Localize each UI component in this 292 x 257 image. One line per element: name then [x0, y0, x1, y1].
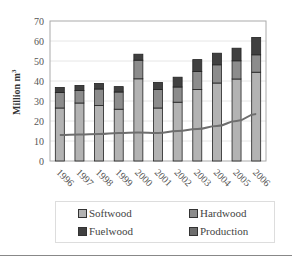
legend-label: Fuelwood — [89, 225, 133, 237]
svg-text:1999: 1999 — [113, 167, 135, 189]
svg-text:1997: 1997 — [74, 167, 96, 189]
legend-item-softwood: Softwood — [78, 207, 132, 219]
x-axis-ticks: 1996199719981999200020012002200320042005… — [54, 167, 272, 189]
legend-label: Hardwood — [200, 207, 246, 219]
fuelwood-swatch-icon — [78, 227, 87, 236]
production-swatch-icon — [189, 227, 198, 236]
svg-text:10: 10 — [34, 136, 44, 147]
stacked-bar-chart: 010203040506070 199619971998199920002001… — [0, 0, 292, 200]
svg-text:1996: 1996 — [54, 167, 76, 189]
legend: Softwood Hardwood Fuelwood Production — [55, 201, 275, 243]
svg-text:2005: 2005 — [231, 167, 253, 189]
divider — [0, 255, 292, 256]
svg-text:0: 0 — [39, 156, 44, 167]
svg-text:2003: 2003 — [192, 167, 214, 189]
bars — [55, 37, 260, 161]
legend-label: Softwood — [89, 207, 132, 219]
svg-text:2001: 2001 — [153, 167, 175, 189]
svg-text:50: 50 — [34, 56, 44, 67]
svg-text:2000: 2000 — [133, 167, 155, 189]
legend-item-fuelwood: Fuelwood — [78, 225, 133, 237]
svg-text:40: 40 — [34, 76, 44, 87]
legend-item-production: Production — [189, 225, 248, 237]
svg-text:2004: 2004 — [211, 167, 233, 189]
svg-text:30: 30 — [34, 96, 44, 107]
svg-text:1998: 1998 — [94, 167, 116, 189]
svg-text:70: 70 — [34, 16, 44, 27]
legend-label: Production — [200, 225, 248, 237]
svg-text:60: 60 — [34, 36, 44, 47]
softwood-swatch-icon — [78, 209, 87, 218]
legend-item-hardwood: Hardwood — [189, 207, 246, 219]
y-axis-label: Million m3 — [10, 69, 22, 115]
svg-text:20: 20 — [34, 116, 44, 127]
svg-text:2006: 2006 — [251, 167, 273, 189]
y-axis-ticks: 010203040506070 — [34, 16, 44, 167]
svg-text:2002: 2002 — [172, 167, 194, 189]
hardwood-swatch-icon — [189, 209, 198, 218]
